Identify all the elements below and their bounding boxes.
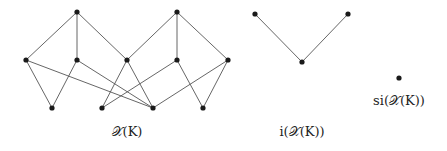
edge-XK-m2-b1 xyxy=(52,60,77,108)
edge-XK-t2-m3 xyxy=(127,12,177,60)
node-XK-m1 xyxy=(23,57,28,62)
node-siXK-s xyxy=(396,75,401,80)
edge-XK-m4-b2 xyxy=(102,60,177,108)
edge-XK-m1-b3 xyxy=(26,60,153,108)
edge-XK-m1-b1 xyxy=(26,60,52,108)
node-XK-b2 xyxy=(99,105,104,110)
nodes-layer xyxy=(23,9,401,110)
edges-layer xyxy=(26,12,348,108)
node-XK-m4 xyxy=(174,57,179,62)
poset-diagram xyxy=(0,0,447,151)
node-XK-t2 xyxy=(174,9,179,14)
edge-iXK-b-c xyxy=(302,14,348,62)
node-XK-t1 xyxy=(74,9,79,14)
node-XK-m2 xyxy=(74,57,79,62)
node-XK-b4 xyxy=(200,105,205,110)
label-i-xk: i(𝒳(K)) xyxy=(279,124,324,140)
node-XK-b3 xyxy=(150,105,155,110)
node-XK-m5 xyxy=(225,57,230,62)
edge-XK-m5-b4 xyxy=(203,60,228,108)
edge-XK-t2-m5 xyxy=(177,12,228,60)
edge-XK-t1-m1 xyxy=(26,12,77,60)
node-iXK-c xyxy=(299,59,304,64)
node-iXK-b xyxy=(345,11,350,16)
node-XK-m3 xyxy=(124,57,129,62)
node-iXK-a xyxy=(252,11,257,16)
edge-iXK-a-c xyxy=(255,14,302,62)
node-XK-b1 xyxy=(49,105,54,110)
label-si-xk: si(𝒳(K)) xyxy=(373,93,425,109)
edge-XK-m5-b3 xyxy=(153,60,228,108)
edge-XK-m3-b2 xyxy=(102,60,127,108)
edge-XK-t1-m3 xyxy=(77,12,127,60)
label-xk: 𝒳(K) xyxy=(112,124,143,140)
